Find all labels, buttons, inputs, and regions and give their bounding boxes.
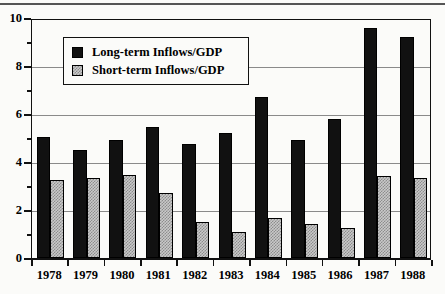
x-axis-line — [31, 258, 431, 260]
x-tick-1987 — [358, 260, 360, 266]
bar-long-term-1987 — [364, 28, 378, 258]
y-tick-label-2: 2 — [0, 204, 22, 216]
x-tick-1979 — [67, 260, 69, 266]
x-tick-1985 — [286, 260, 288, 266]
bar-long-term-1984 — [255, 97, 269, 258]
x-tick-label-1980: 1980 — [109, 268, 134, 282]
x-tick-label-1986: 1986 — [328, 268, 353, 282]
bar-short-term-1982 — [196, 222, 210, 258]
bar-short-term-1979 — [87, 178, 101, 258]
legend-label-short-term: Short-term Inflows/GDP — [92, 63, 224, 77]
bar-long-term-1980 — [109, 140, 123, 258]
x-tick-1982 — [176, 260, 178, 266]
x-tick-label-1987: 1987 — [364, 268, 389, 282]
x-tick-1980 — [104, 260, 106, 266]
x-tick-end — [431, 260, 433, 266]
legend-swatch-long-term-icon — [72, 47, 83, 58]
bar-chart: 0246810 19781979198019811982198319841985… — [0, 0, 445, 294]
y-tick-4 — [24, 162, 31, 164]
bar-short-term-1981 — [159, 193, 173, 258]
bar-short-term-1980 — [123, 175, 137, 258]
y-tick-0 — [24, 258, 31, 260]
legend-item-short-term: Short-term Inflows/GDP — [72, 61, 248, 79]
bar-long-term-1986 — [328, 119, 342, 258]
x-tick-1983 — [213, 260, 215, 266]
bar-short-term-1986 — [341, 228, 355, 258]
bar-short-term-1988 — [414, 178, 428, 258]
x-tick-label-1981: 1981 — [146, 268, 171, 282]
legend-label-long-term: Long-term Inflows/GDP — [92, 45, 222, 59]
y-tick-label-10: 10 — [0, 12, 22, 24]
y-tick-label-wrap-10: 10 — [0, 12, 22, 24]
y-tick-2 — [24, 210, 31, 212]
x-tick-label-1983: 1983 — [219, 268, 244, 282]
x-tick-1986 — [322, 260, 324, 266]
bar-short-term-1987 — [377, 176, 391, 258]
bar-short-term-1984 — [268, 218, 282, 258]
bar-long-term-1988 — [400, 37, 414, 258]
x-tick-label-1984: 1984 — [255, 268, 280, 282]
bar-short-term-1983 — [232, 232, 246, 258]
x-tick-1981 — [140, 260, 142, 266]
x-tick-1984 — [249, 260, 251, 266]
bar-long-term-1982 — [182, 144, 196, 258]
y-tick-label-8: 8 — [0, 60, 22, 72]
legend-swatch-short-term-icon — [72, 65, 83, 76]
y-tick-label-wrap-4: 4 — [0, 156, 22, 168]
bar-long-term-1978 — [37, 137, 51, 258]
y-tick-8 — [24, 66, 31, 68]
bar-long-term-1985 — [291, 140, 305, 258]
top-divider-rule — [0, 3, 445, 5]
x-tick-label-1979: 1979 — [73, 268, 98, 282]
x-tick-label-1988: 1988 — [400, 268, 425, 282]
y-tick-label-6: 6 — [0, 108, 22, 120]
legend-item-long-term: Long-term Inflows/GDP — [72, 43, 248, 61]
bar-short-term-1985 — [305, 224, 319, 258]
bar-long-term-1981 — [146, 127, 160, 258]
chart-legend: Long-term Inflows/GDP Short-term Inflows… — [63, 37, 249, 85]
y-tick-label-0: 0 — [0, 252, 22, 264]
y-tick-6 — [24, 114, 31, 116]
x-tick-1988 — [395, 260, 397, 266]
x-tick-1978 — [31, 260, 33, 266]
x-tick-label-1982: 1982 — [182, 268, 207, 282]
y-tick-label-wrap-2: 2 — [0, 204, 22, 216]
y-tick-label-wrap-8: 8 — [0, 60, 22, 72]
x-tick-label-1985: 1985 — [291, 268, 316, 282]
y-tick-label-wrap-6: 6 — [0, 108, 22, 120]
y-tick-label-wrap-0: 0 — [0, 252, 22, 264]
x-tick-label-1978: 1978 — [37, 268, 62, 282]
bar-short-term-1978 — [50, 180, 64, 258]
y-tick-label-4: 4 — [0, 156, 22, 168]
bar-long-term-1979 — [73, 150, 87, 258]
y-tick-10 — [24, 18, 31, 20]
bar-long-term-1983 — [219, 133, 233, 258]
